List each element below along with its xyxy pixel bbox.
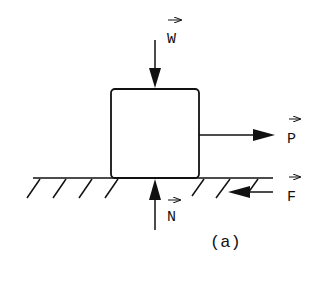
ground-hatching: [27, 179, 258, 198]
block: [111, 89, 199, 178]
svg-text:F: F: [287, 189, 296, 206]
svg-text:W: W: [167, 31, 176, 48]
force-n-arrow: [149, 179, 161, 230]
force-p-label: P: [287, 119, 300, 148]
force-w-label: W: [167, 20, 181, 48]
svg-text:P: P: [287, 131, 296, 148]
force-w-arrow: [149, 40, 161, 88]
force-f-arrow: [228, 186, 273, 198]
force-n-label: N: [167, 200, 180, 226]
figure-caption: (a): [210, 233, 241, 252]
free-body-diagram: W P N F (a): [0, 0, 318, 284]
svg-text:N: N: [167, 209, 176, 226]
force-p-arrow: [199, 129, 275, 141]
force-f-label: F: [287, 177, 300, 206]
